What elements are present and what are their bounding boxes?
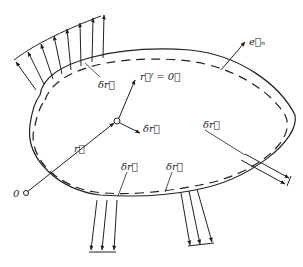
label-dr-bottom-left: δr⃗ [121,161,138,172]
label-dr-bottom-mid: δr⃗ [166,161,183,172]
label-rf-zero: r⃗ᶠ = 0⃗ [140,71,180,82]
distributed-load-bottom-right [181,189,214,246]
label-dr-right: δr⃗ [203,119,220,130]
label-dr-top-left: δr⃗ [98,79,115,90]
normal-vector-en [221,42,245,70]
origin-point [24,191,29,196]
label-dr-center: δr⃗ [143,123,160,134]
virtual-displacement-center [120,123,140,133]
label-r: r⃗ [74,143,85,154]
label-en: e⃗ₙ [249,36,265,47]
distributed-load-bottom-left [89,200,117,252]
distributed-load-top-left [14,15,104,90]
rf-vector [119,80,135,118]
material-point [114,118,120,124]
virtual-displacement-diagram: δr⃗ r⃗ᶠ = 0⃗ δr⃗ e⃗ₙ δr⃗ r⃗ 0 δr⃗ δr⃗ [0,0,303,267]
label-origin: 0 [13,188,20,199]
position-vector-r [27,123,114,192]
